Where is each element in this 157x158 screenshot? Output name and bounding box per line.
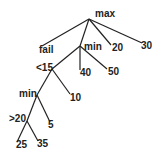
node-label-lt15: <15 bbox=[36, 62, 53, 73]
tree-edge-min2-n5 bbox=[37, 95, 50, 122]
node-label-min-lower: min bbox=[19, 88, 37, 99]
node-label-fail: fail bbox=[39, 44, 54, 55]
node-label-max-root: max bbox=[95, 8, 115, 19]
tree-edges bbox=[17, 19, 142, 142]
node-label-35: 35 bbox=[37, 138, 49, 149]
tree-diagram: max fail min 20 30 <15 40 50 min 10 >20 … bbox=[0, 0, 157, 158]
node-label-min-upper: min bbox=[84, 41, 102, 52]
node-label-gt20: >20 bbox=[9, 113, 26, 124]
tree-edge-root-n30 bbox=[89, 19, 142, 43]
tree-edge-min1-lt15 bbox=[52, 46, 80, 69]
node-label-20: 20 bbox=[112, 42, 124, 53]
tree-labels: max fail min 20 30 <15 40 50 min 10 >20 … bbox=[9, 8, 153, 150]
node-label-10: 10 bbox=[70, 92, 82, 103]
node-label-50: 50 bbox=[108, 66, 120, 77]
node-label-40: 40 bbox=[80, 67, 92, 78]
node-label-25: 25 bbox=[16, 139, 28, 150]
node-label-5: 5 bbox=[48, 119, 54, 130]
tree-edge-lt15-n10 bbox=[52, 69, 70, 94]
node-label-30: 30 bbox=[141, 40, 153, 51]
